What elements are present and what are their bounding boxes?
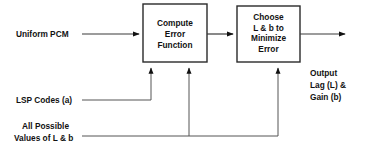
block-choose-line-2: L & b to: [253, 23, 284, 33]
block-compute-line-2: Error: [165, 29, 186, 39]
diagram-canvas: Compute Error Function Choose L & b to M…: [0, 0, 388, 157]
label-all-possible-line-1: All Possible: [22, 121, 69, 131]
label-all-possible-line-2: Values of L & b: [14, 133, 73, 143]
block-choose-line-4: Error: [258, 44, 279, 54]
label-output-line-2: Lag (L) &: [310, 80, 346, 90]
block-diagram: Compute Error Function Choose L & b to M…: [0, 0, 388, 157]
block-choose-line-3: Minimize: [251, 33, 286, 43]
block-compute-line-3: Function: [157, 40, 192, 50]
wire-lsp-to-compute: [82, 68, 151, 100]
block-choose-line-1: Choose: [253, 12, 284, 22]
label-output-line-3: Gain (b): [310, 92, 342, 102]
label-output-line-1: Output: [310, 68, 337, 78]
label-uniform-pcm: Uniform PCM: [16, 29, 69, 39]
block-compute-line-1: Compute: [157, 18, 193, 28]
label-lsp-codes: LSP Codes (a): [16, 95, 72, 105]
